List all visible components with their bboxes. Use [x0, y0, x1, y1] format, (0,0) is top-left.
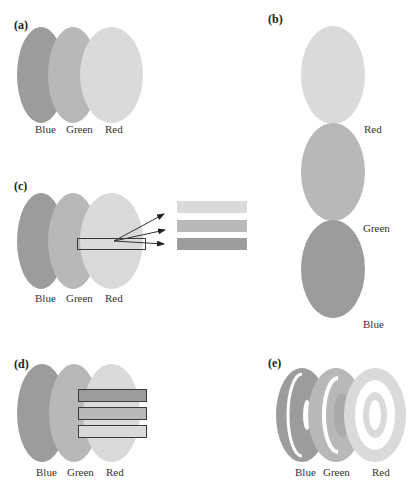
blue-label: Blue: [295, 466, 316, 478]
green-label: Green: [323, 466, 350, 478]
red-label: Red: [372, 466, 390, 478]
rings-icon: [0, 0, 414, 487]
